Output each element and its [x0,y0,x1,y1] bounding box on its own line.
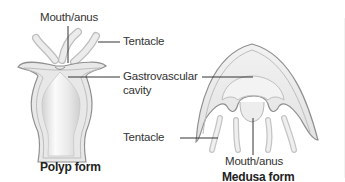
polyp-tentacle-label: Tentacle [123,35,164,47]
gastrovascular-label-line2: cavity [123,84,151,96]
polyp-tentacles [36,32,96,62]
medusa-illustration [196,44,318,150]
gastrovascular-label-line1: Gastrovascular [123,70,198,82]
cnidarian-body-forms-diagram [0,0,345,182]
medusa-mouth-label: Mouth/anus [225,155,283,167]
medusa-tentacle-label: Tentacle [123,131,164,143]
medusa-manubrium [240,102,264,122]
medusa-caption: Medusa form [222,170,294,182]
polyp-illustration [18,32,106,162]
polyp-caption: Polyp form [40,160,101,174]
polyp-mouth-label: Mouth/anus [40,11,98,23]
